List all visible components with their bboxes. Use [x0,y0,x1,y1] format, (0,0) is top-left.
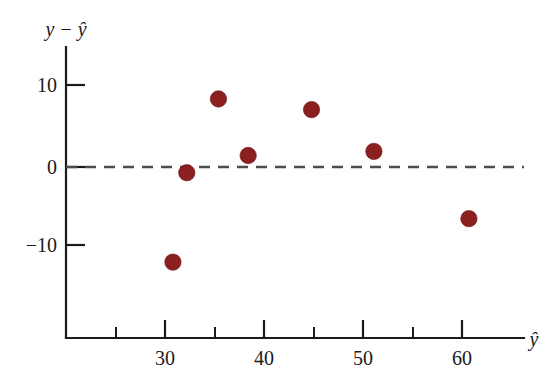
y-tick-label-minus-10: −10 [26,234,57,256]
data-point [179,165,195,181]
y-tick-label-0: 0 [47,156,57,178]
x-tick-label-50: 50 [353,347,373,369]
data-points-group [165,91,477,271]
x-axis-title: ŷ [528,328,539,351]
y-tick-label-10: 10 [37,74,57,96]
x-axis-title-text: ŷ [528,328,539,351]
x-tick-label-30: 30 [155,347,175,369]
y-axis-title: y − ŷ [43,18,86,41]
data-point [303,101,319,117]
data-point [461,210,477,226]
x-tick-label-60: 60 [452,347,472,369]
data-point [366,143,382,159]
data-point [165,254,181,270]
y-axis-title-text: y − ŷ [43,18,86,41]
data-point [240,147,256,163]
data-point [210,91,226,107]
x-tick-label-40: 40 [254,347,274,369]
residual-plot-figure: 10 0 −10 y − ŷ 30 40 50 60 ŷ [0,0,551,381]
scatter-plot-canvas: 10 0 −10 y − ŷ 30 40 50 60 ŷ [0,0,551,381]
